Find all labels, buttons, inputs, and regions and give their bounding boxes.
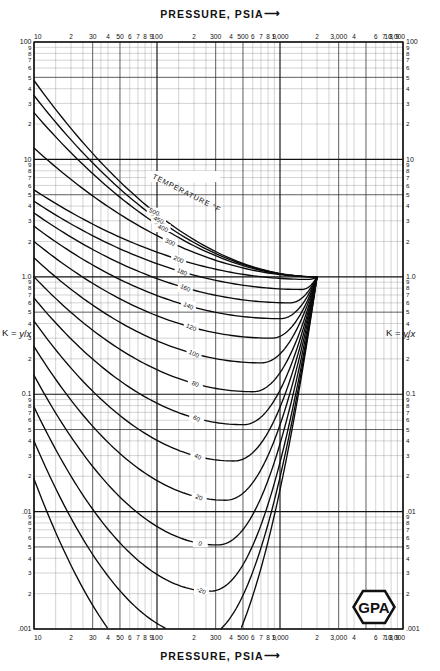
- x-tick-label: 3,000: [330, 33, 347, 40]
- x-tick-label-minor: 7: [136, 33, 140, 40]
- y-tick-label-minor: 7: [406, 291, 410, 298]
- y-tick-label: 100: [20, 38, 32, 45]
- y-tick-label-minor: 4: [406, 437, 410, 444]
- y-tick-label-minor: 5: [406, 191, 410, 198]
- y-tick-label-minor: 4: [28, 320, 32, 327]
- y-tick-label-minor: 6: [28, 182, 32, 189]
- y-tick-label-minor: 7: [28, 526, 32, 533]
- y-tick-label: 10: [406, 156, 414, 163]
- x-tick-label: 500: [237, 634, 249, 641]
- x-tick-label-minor: 2: [69, 33, 73, 40]
- plot-frame: [34, 42, 403, 629]
- x-tick-label-minor: 6: [374, 634, 378, 641]
- y-tick-label-minor: 3: [28, 217, 32, 224]
- y-tick-label-minor: 8: [406, 519, 410, 526]
- x-tick-label-minor: 9: [396, 33, 400, 40]
- curve-value-label: 80: [188, 379, 203, 388]
- y-tick-label: 0.1: [22, 390, 32, 397]
- x-tick-label-minor: 8: [143, 634, 147, 641]
- y-tick-label-minor: 3: [406, 100, 410, 107]
- y-tick-label-minor: 5: [28, 426, 32, 433]
- x-tick-label-minor: 4: [106, 33, 110, 40]
- y-tick-label-minor: 3: [406, 452, 410, 459]
- y-tick-label-minor: 4: [28, 437, 32, 444]
- y-tick-label-minor: 6: [406, 299, 410, 306]
- y-tick-label-minor: 7: [28, 56, 32, 63]
- y-tick-label-minor: 6: [28, 416, 32, 423]
- isotherm-curve: [34, 277, 317, 500]
- x-tick-label-minor: 8: [389, 33, 393, 40]
- y-tick-label-minor: 4: [406, 202, 410, 209]
- y-tick-label-minor: 2: [406, 355, 410, 362]
- y-tick-label-minor: 2: [28, 120, 32, 127]
- x-tick-label-minor: 6: [128, 33, 132, 40]
- y-tick-label: 10: [24, 156, 32, 163]
- y-axis-tick-labels: .001.0012233445566778899.01.012233445566…: [18, 38, 420, 632]
- x-tick-label-minor: 9: [396, 634, 400, 641]
- gpa-logo: GPA: [352, 589, 396, 625]
- x-tick-label: 3,000: [330, 634, 347, 641]
- x-tick-label-minor: 8: [389, 634, 393, 641]
- y-tick-label-minor: 8: [28, 50, 32, 57]
- grid-decade-lines: [34, 42, 403, 629]
- x-tick-label-minor: 7: [382, 634, 386, 641]
- y-tick-label-minor: 2: [406, 472, 410, 479]
- x-tick-label: 30: [89, 33, 97, 40]
- y-tick-label: 1.0: [406, 273, 416, 280]
- y-tick-label-minor: 5: [28, 191, 32, 198]
- curve-value-label: -20: [194, 585, 209, 595]
- chart-page: PRESSURE, PSIA⟶ PRESSURE, PSIA⟶ K = y/x …: [0, 0, 440, 671]
- y-tick-label: .01: [22, 508, 32, 515]
- isotherm-curve: [34, 277, 317, 591]
- y-tick-label-minor: 2: [406, 120, 410, 127]
- x-tick-label-minor: 4: [352, 634, 356, 641]
- x-tick-label-minor: 6: [128, 634, 132, 641]
- y-tick-label-minor: 2: [28, 590, 32, 597]
- x-tick-label-minor: 2: [315, 634, 319, 641]
- y-tick-label-minor: 5: [28, 308, 32, 315]
- x-tick-label-minor: 8: [266, 634, 270, 641]
- y-tick-label-minor: 7: [406, 174, 410, 181]
- x-tick-label-minor: 2: [192, 634, 196, 641]
- y-tick-label-minor: 7: [28, 174, 32, 181]
- y-tick-label-minor: 5: [406, 543, 410, 550]
- y-tick-label-minor: 6: [28, 534, 32, 541]
- y-tick-label-minor: 2: [406, 238, 410, 245]
- x-tick-label-minor: 6: [374, 33, 378, 40]
- y-tick-label-minor: 3: [28, 569, 32, 576]
- y-tick-label-minor: 3: [406, 217, 410, 224]
- curve-value-label: 160: [178, 282, 193, 293]
- y-tick-label: 0.1: [406, 390, 416, 397]
- y-tick-label-minor: 2: [406, 590, 410, 597]
- x-tick-label-minor: 6: [251, 33, 255, 40]
- y-tick-label-minor: 3: [28, 100, 32, 107]
- y-tick-label-minor: 8: [406, 402, 410, 409]
- y-tick-label: .001: [18, 625, 32, 632]
- y-tick-label-minor: 5: [406, 74, 410, 81]
- x-tick-label-minor: 9: [150, 33, 154, 40]
- curve-value-label: 100: [187, 348, 202, 359]
- x-tick-label-minor: 9: [273, 33, 277, 40]
- x-tick-label: 30: [89, 634, 97, 641]
- y-tick-label: 1.0: [22, 273, 32, 280]
- x-tick-label: 10: [34, 33, 42, 40]
- x-tick-label-minor: 7: [382, 33, 386, 40]
- y-tick-label-minor: 6: [406, 182, 410, 189]
- y-tick-label-minor: 8: [406, 167, 410, 174]
- isotherm-curve: [34, 190, 317, 280]
- gpa-logo-text: GPA: [358, 599, 390, 616]
- chart-plot-area: 1010303050501001003003005005001,0001,000…: [0, 0, 440, 671]
- x-tick-label-minor: 2: [69, 634, 73, 641]
- y-tick-label-minor: 8: [28, 519, 32, 526]
- curve-value-label: 300: [163, 237, 178, 248]
- isotherm-curve: [34, 277, 317, 425]
- x-tick-label-minor: 7: [136, 634, 140, 641]
- curve-value-label: 60: [189, 414, 204, 423]
- x-tick-label-minor: 4: [229, 634, 233, 641]
- x-tick-label-minor: 6: [251, 634, 255, 641]
- y-tick-label-minor: 2: [28, 472, 32, 479]
- y-tick-label-minor: 6: [28, 299, 32, 306]
- y-tick-label-minor: 6: [406, 64, 410, 71]
- isotherm-curve: [34, 277, 317, 628]
- y-tick-label-minor: 8: [28, 284, 32, 291]
